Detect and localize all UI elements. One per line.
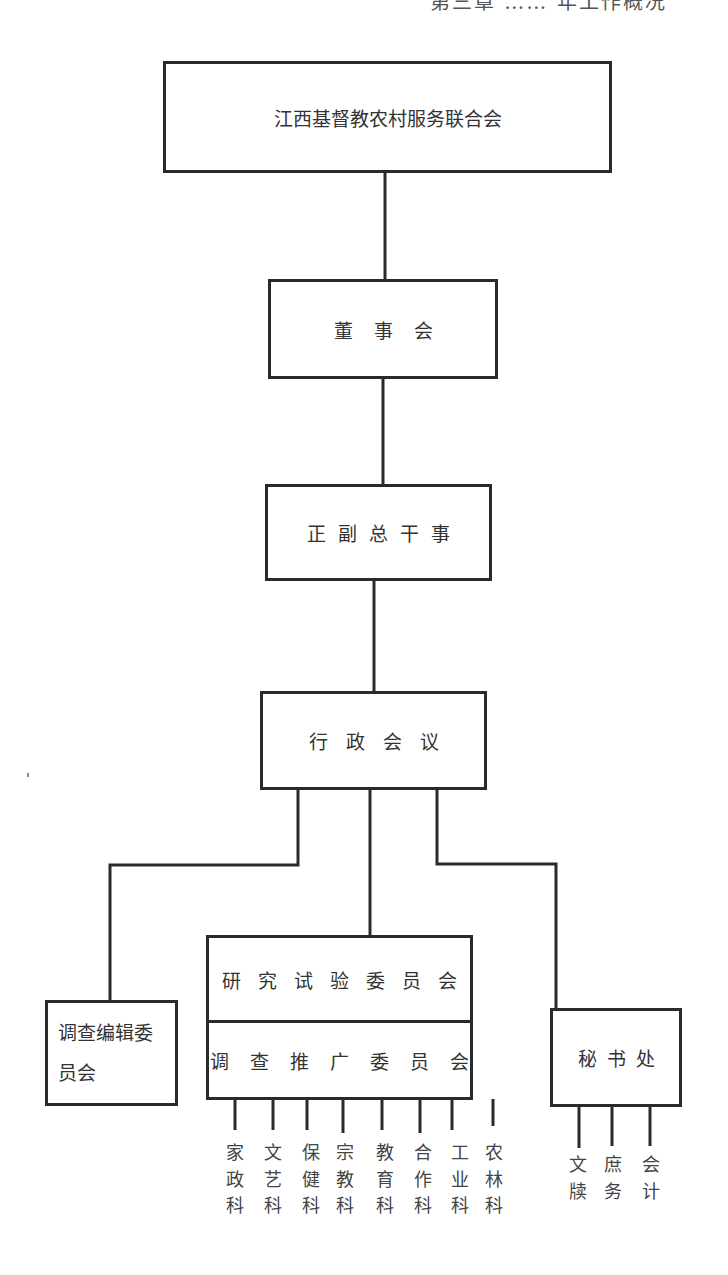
root-org-label: 江西基督教农村服务联合会 [274,104,502,131]
section-education: 教育科 [373,1140,397,1220]
research-committee-label: 研究试验委员会 [205,966,474,993]
section-agriculture-forestry: 农林科 [482,1140,506,1220]
section-home-economics: 家政科 [223,1140,247,1220]
section-health: 保健科 [299,1140,323,1220]
directors-box: 正副总干事 [265,484,492,581]
survey-editorial-committee-box: 调查编辑委员会 [45,1000,178,1106]
section-accounting: 会计 [639,1152,663,1205]
extension-committee-cell: 调查推广委员会 [209,1023,470,1097]
section-religion: 宗教科 [333,1140,357,1220]
survey-editorial-committee-label: 调查编辑委员会 [58,1013,158,1093]
board-box: 董事会 [268,279,498,379]
executive-meeting-label: 行政会议 [291,727,457,754]
section-arts: 文艺科 [261,1140,285,1220]
extension-committee-label: 调查推广委员会 [189,1047,490,1074]
root-org-box: 江西基督教农村服务联合会 [163,61,612,173]
executive-meeting-box: 行政会议 [260,691,487,790]
committees-box: 研究试验委员会 调查推广委员会 [206,935,473,1100]
board-label: 董事会 [313,316,454,343]
section-correspondence: 文牍 [566,1152,590,1205]
section-industry: 工业科 [448,1140,472,1220]
secretariat-label: 秘书处 [568,1044,665,1071]
section-cooperative: 合作科 [411,1140,435,1220]
section-general-affairs: 庶务 [601,1152,625,1205]
scan-speck [27,773,29,777]
research-committee-cell: 研究试验委员会 [209,938,470,1020]
secretariat-box: 秘书处 [550,1008,682,1107]
directors-label: 正副总干事 [295,519,462,546]
